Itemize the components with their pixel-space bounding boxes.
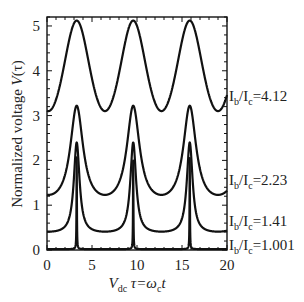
series-labels: Ib/Ic=4.12Ib/Ic=2.23Ib/Ic=1.41Ib/Ic=1.00… — [229, 88, 295, 256]
series-label-2-23: Ib/Ic=2.23 — [229, 172, 287, 191]
series-curve-4-12 — [47, 21, 227, 112]
y-tick-label: 4 — [33, 63, 41, 79]
y-tick-label: 0 — [33, 242, 41, 258]
series-curve-1-41 — [47, 142, 227, 231]
y-tick-label: 1 — [33, 197, 41, 213]
series-label-4-12: Ib/Ic=4.12 — [229, 88, 287, 107]
y-axis-title: Normalized voltage V(τ) — [9, 60, 26, 208]
x-tick-label: 0 — [43, 257, 51, 273]
x-axis-title: Vdc τ=ωct — [108, 275, 166, 294]
x-tick-label: 5 — [88, 257, 96, 273]
voltage-chart: 05101520012345 Ib/Ic=4.12Ib/Ic=2.23Ib/Ic… — [0, 0, 304, 302]
y-tick-label: 5 — [33, 18, 41, 34]
series-label-1-001: Ib/Ic=1.001 — [229, 237, 295, 256]
series-label-1-41: Ib/Ic=1.41 — [229, 213, 287, 232]
series-curves — [47, 21, 227, 250]
x-tick-label: 10 — [130, 257, 145, 273]
x-tick-label: 20 — [220, 257, 235, 273]
y-tick-label: 2 — [33, 152, 41, 168]
x-tick-label: 15 — [175, 257, 190, 273]
y-tick-label: 3 — [33, 108, 41, 124]
